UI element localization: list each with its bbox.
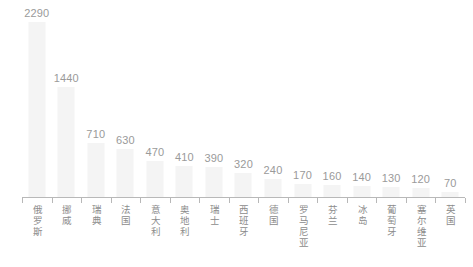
category-label-slot: 瑞典 xyxy=(81,205,111,231)
axis-tick xyxy=(435,198,436,203)
axis-tick xyxy=(52,198,53,203)
category-label: 塞尔维亚 xyxy=(415,205,427,249)
category-label-slot: 葡萄牙 xyxy=(376,205,406,242)
category-label-slot: 瑞士 xyxy=(199,205,229,231)
axis-tick xyxy=(317,198,318,203)
axis-tick xyxy=(111,198,112,203)
axis-tick xyxy=(288,198,289,203)
bar-value-label: 390 xyxy=(204,152,223,164)
bar-group: 240 xyxy=(258,0,288,197)
bar-value-label: 410 xyxy=(175,151,194,163)
bar-value-label: 140 xyxy=(352,171,371,183)
bar-value-label: 710 xyxy=(86,128,105,140)
category-label: 俄罗斯 xyxy=(31,205,43,238)
axis-tick xyxy=(22,198,23,203)
category-label: 西班牙 xyxy=(237,205,249,238)
category-label: 奥地利 xyxy=(178,205,190,238)
bar xyxy=(294,184,311,197)
axis-tick xyxy=(81,198,82,203)
bar-value-label: 2290 xyxy=(24,7,49,19)
bar-value-label: 170 xyxy=(293,169,312,181)
category-label-slot: 德国 xyxy=(258,205,288,231)
category-axis: 俄罗斯挪威瑞典法国意大利奥地利瑞士西班牙德国罗马尼亚芬兰冰岛葡萄牙塞尔维亚英国 xyxy=(22,205,465,267)
category-label-slot: 塞尔维亚 xyxy=(406,205,436,253)
category-label: 瑞典 xyxy=(90,205,102,227)
plot-area: 2290144071063047041039032024017016014013… xyxy=(22,0,465,197)
bar xyxy=(412,188,429,197)
axis-tick xyxy=(229,198,230,203)
bar-value-label: 470 xyxy=(145,146,164,158)
category-label: 芬兰 xyxy=(326,205,338,227)
bar xyxy=(265,179,282,197)
bar-group: 120 xyxy=(406,0,436,197)
category-label-slot: 英国 xyxy=(435,205,465,231)
bar xyxy=(87,143,104,197)
axis-tick xyxy=(406,198,407,203)
axis-tick xyxy=(140,198,141,203)
bar-group: 630 xyxy=(111,0,141,197)
bar-group: 170 xyxy=(288,0,318,197)
category-label-slot: 冰岛 xyxy=(347,205,377,231)
bar-group: 410 xyxy=(170,0,200,197)
bar-group: 70 xyxy=(435,0,465,197)
axis-tick xyxy=(376,198,377,203)
category-label: 葡萄牙 xyxy=(385,205,397,238)
bar-group: 140 xyxy=(347,0,377,197)
bar xyxy=(117,149,134,197)
bar xyxy=(176,166,193,197)
axis-tick xyxy=(199,198,200,203)
bar-value-label: 120 xyxy=(411,173,430,185)
category-label-slot: 奥地利 xyxy=(170,205,200,242)
bar-group: 390 xyxy=(199,0,229,197)
bar-chart: 2290144071063047041039032024017016014013… xyxy=(0,0,473,267)
bar-value-label: 630 xyxy=(116,134,135,146)
bar xyxy=(146,161,163,197)
category-label: 挪威 xyxy=(60,205,72,227)
bar xyxy=(58,87,75,197)
category-label-slot: 俄罗斯 xyxy=(22,205,52,242)
category-label-slot: 挪威 xyxy=(52,205,82,231)
bar xyxy=(383,187,400,197)
bar xyxy=(235,173,252,197)
bar xyxy=(353,186,370,197)
bar-value-label: 1440 xyxy=(54,72,79,84)
bar-value-label: 130 xyxy=(382,172,401,184)
category-label: 瑞士 xyxy=(208,205,220,227)
category-label-slot: 芬兰 xyxy=(317,205,347,231)
bar-value-label: 70 xyxy=(444,177,457,189)
category-label: 德国 xyxy=(267,205,279,227)
category-label: 罗马尼亚 xyxy=(297,205,309,249)
bar-group: 470 xyxy=(140,0,170,197)
x-axis-line xyxy=(22,197,465,198)
bar-group: 160 xyxy=(317,0,347,197)
axis-tick xyxy=(170,198,171,203)
bar-group: 710 xyxy=(81,0,111,197)
axis-tick xyxy=(347,198,348,203)
category-label-slot: 意大利 xyxy=(140,205,170,242)
bar xyxy=(324,185,341,197)
bar-value-label: 160 xyxy=(323,170,342,182)
bar-group: 320 xyxy=(229,0,259,197)
bar xyxy=(28,22,45,197)
axis-tick xyxy=(258,198,259,203)
category-label: 英国 xyxy=(444,205,456,227)
category-label-slot: 西班牙 xyxy=(229,205,259,242)
axis-tick xyxy=(465,198,466,203)
category-label: 冰岛 xyxy=(356,205,368,227)
bar-group: 1440 xyxy=(52,0,82,197)
bar-value-label: 240 xyxy=(264,164,283,176)
bar-group: 130 xyxy=(376,0,406,197)
category-label: 法国 xyxy=(119,205,131,227)
category-label-slot: 法国 xyxy=(111,205,141,231)
bar xyxy=(205,167,222,197)
category-label-slot: 罗马尼亚 xyxy=(288,205,318,253)
bar-group: 2290 xyxy=(22,0,52,197)
bar-value-label: 320 xyxy=(234,158,253,170)
category-label: 意大利 xyxy=(149,205,161,238)
